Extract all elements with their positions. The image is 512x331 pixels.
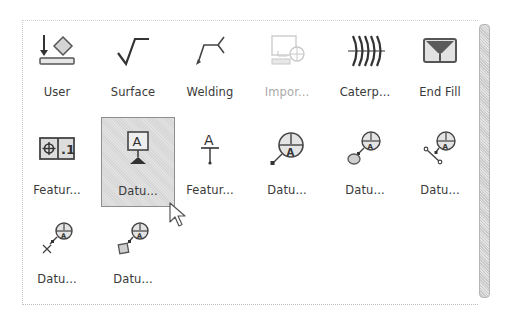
symbol-button-datum-target-line[interactable]: A Datu... bbox=[403, 117, 477, 207]
symbol-label: Surface bbox=[111, 85, 156, 99]
symbol-button-welding[interactable]: Welding bbox=[173, 19, 247, 109]
datum-target-point-icon: A bbox=[35, 218, 79, 258]
symbol-button-surface[interactable]: Surface bbox=[96, 19, 170, 109]
symbol-label: Datu... bbox=[345, 183, 384, 197]
symbol-label: Datu... bbox=[118, 184, 157, 198]
symbol-button-datum-target-point[interactable]: A Datu... bbox=[20, 206, 94, 296]
svg-text:.1: .1 bbox=[61, 142, 75, 157]
symbol-label: Caterp... bbox=[340, 85, 391, 99]
svg-text:A: A bbox=[287, 147, 295, 158]
symbol-button-caterpillar[interactable]: Caterp... bbox=[328, 19, 402, 109]
feature-control-frame-icon: .1 bbox=[35, 129, 79, 169]
symbol-button-end-fill[interactable]: End Fill bbox=[403, 19, 477, 109]
datum-target-square-icon: A bbox=[111, 218, 155, 258]
symbol-button-feature-identifier[interactable]: A Featur... bbox=[173, 117, 247, 207]
datum-target-icon: A bbox=[265, 129, 309, 169]
symbol-label: Datu... bbox=[113, 272, 152, 286]
symbol-label: Welding bbox=[187, 85, 234, 99]
symbol-button-datum-target-square[interactable]: A Datu... bbox=[96, 206, 170, 296]
symbol-label: Impor... bbox=[265, 85, 309, 99]
end-fill-icon bbox=[418, 31, 462, 71]
symbol-button-import: Impor... bbox=[250, 19, 324, 109]
datum-feature-icon: A bbox=[116, 130, 160, 170]
symbol-button-feature-control-frame[interactable]: .1 Featur... bbox=[20, 117, 94, 207]
svg-text:A: A bbox=[368, 143, 374, 151]
symbol-label: Featur... bbox=[186, 183, 233, 197]
symbol-label: User bbox=[44, 85, 71, 99]
surface-finish-icon bbox=[111, 31, 155, 71]
datum-target-area-icon: A bbox=[343, 129, 387, 169]
symbol-button-user[interactable]: User bbox=[20, 19, 94, 109]
user-datum-icon bbox=[35, 31, 79, 71]
symbol-label: Datu... bbox=[420, 183, 459, 197]
svg-text:A: A bbox=[443, 143, 449, 151]
symbol-label: End Fill bbox=[419, 85, 461, 99]
svg-text:A: A bbox=[204, 132, 214, 148]
datum-target-line-icon: A bbox=[418, 129, 462, 169]
caterpillar-icon bbox=[343, 31, 387, 71]
svg-text:A: A bbox=[61, 232, 66, 240]
welding-symbol-icon bbox=[188, 31, 232, 71]
symbol-button-datum-feature[interactable]: A Datu... bbox=[101, 117, 175, 207]
symbol-label: Datu... bbox=[37, 272, 76, 286]
mouse-cursor-icon bbox=[168, 202, 188, 228]
symbol-button-datum-target[interactable]: A Datu... bbox=[250, 117, 324, 207]
symbol-button-datum-target-area[interactable]: A Datu... bbox=[328, 117, 402, 207]
vertical-scrollbar[interactable] bbox=[479, 24, 490, 298]
import-symbol-icon bbox=[265, 31, 309, 71]
symbol-label: Featur... bbox=[33, 183, 80, 197]
svg-text:A: A bbox=[137, 232, 142, 240]
symbol-label: Datu... bbox=[267, 183, 306, 197]
svg-text:A: A bbox=[133, 134, 142, 149]
feature-identifier-icon: A bbox=[188, 129, 232, 169]
